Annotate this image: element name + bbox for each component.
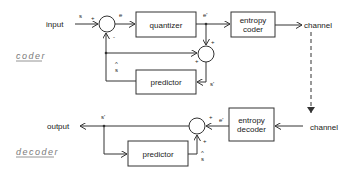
entropy-coder-label-1: entropy — [240, 16, 267, 25]
sum2-plus-left: + — [195, 58, 199, 64]
output-label: output — [47, 122, 70, 131]
signal-e-label: e — [119, 12, 123, 18]
summing-junction-2 — [198, 46, 214, 62]
dpcm-block-diagram: input s + - e quantizer e' entropy coder… — [0, 0, 344, 178]
signal-s-label: s — [79, 13, 82, 19]
summing-junction-3 — [189, 118, 205, 134]
signal-s-prime-decoder: s' — [101, 114, 105, 120]
hat-glyph-decoder: ^ — [201, 150, 204, 156]
signal-e-prime-decoder: e' — [219, 117, 223, 123]
hat-glyph-coder: ^ — [115, 61, 118, 67]
channel-label-decoder: channel — [310, 123, 338, 132]
section-label-coder: coder — [16, 51, 46, 61]
sum2-plus-top: + — [211, 39, 215, 45]
sum1-minus-sign: - — [113, 34, 115, 40]
signal-e-prime-label: e' — [203, 12, 207, 18]
entropy-coder-label-2: coder — [243, 25, 263, 34]
decoder-section: channel entropy decoder e' + + s' output… — [16, 108, 338, 166]
s-hat-to-sum3 — [188, 135, 197, 154]
signal-s-hat-label: s — [115, 67, 118, 73]
s-prime-to-predictor — [197, 62, 206, 82]
predictor-label-coder: predictor — [150, 78, 181, 87]
coder-section: input s + - e quantizer e' entropy coder… — [16, 12, 332, 94]
s-prime-to-predictor-decoder — [104, 126, 127, 154]
sum3-plus-bottom: + — [203, 138, 207, 144]
quantizer-label: quantizer — [150, 21, 183, 30]
sum3-plus-right: + — [209, 114, 213, 120]
channel-label-coder: channel — [304, 21, 332, 30]
entropy-decoder-label-2: decoder — [237, 125, 266, 134]
s-hat-feedback — [106, 33, 136, 81]
predictor-label-decoder: predictor — [142, 150, 173, 159]
signal-s-hat-decoder: s — [201, 156, 204, 162]
entropy-decoder-label-1: entropy — [238, 116, 265, 125]
summing-junction-1 — [99, 16, 115, 32]
signal-s-prime-label: s' — [210, 81, 214, 87]
sum1-plus-sign: + — [91, 15, 95, 21]
section-label-decoder: decoder — [16, 147, 59, 157]
input-label: input — [46, 20, 64, 29]
